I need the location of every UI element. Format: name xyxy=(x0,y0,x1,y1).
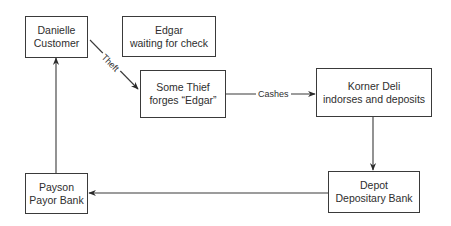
node-danielle-customer: Danielle Customer xyxy=(25,16,88,58)
node-some-thief: Some Thief forges “Edgar” xyxy=(140,70,226,118)
node-payson-line2: Payor Bank xyxy=(29,194,83,207)
node-korner-line2: indorses and deposits xyxy=(323,93,425,106)
node-payson-payor-bank: Payson Payor Bank xyxy=(25,173,88,214)
node-danielle-line2: Customer xyxy=(34,37,80,50)
node-depot-depositary-bank: Depot Depositary Bank xyxy=(328,171,420,213)
node-payson-line1: Payson xyxy=(39,181,74,194)
node-edgar-line2: waiting for check xyxy=(130,37,208,50)
diagram-canvas: Theft Cashes Danielle Customer Edgar wai… xyxy=(0,0,451,226)
node-korner-deli: Korner Deli indorses and deposits xyxy=(316,68,432,117)
node-depot-line1: Depot xyxy=(360,179,388,192)
node-danielle-line1: Danielle xyxy=(38,24,76,37)
node-thief-line2: forges “Edgar” xyxy=(149,94,216,107)
edge-label-cashes: Cashes xyxy=(256,89,291,99)
node-korner-line1: Korner Deli xyxy=(348,80,401,93)
node-depot-line2: Depositary Bank xyxy=(335,192,412,205)
node-thief-line1: Some Thief xyxy=(156,81,210,94)
node-edgar-line1: Edgar xyxy=(155,24,183,37)
node-edgar-waiting: Edgar waiting for check xyxy=(122,16,216,57)
